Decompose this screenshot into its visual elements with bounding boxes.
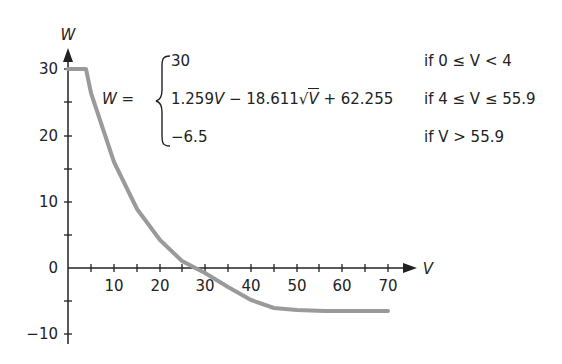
- y-tick-label: −10: [26, 325, 58, 343]
- expr-coef: 1.259: [171, 90, 214, 108]
- expr-const: + 62.255: [319, 90, 394, 108]
- piece-1-expr: 30: [171, 52, 190, 70]
- y-tick-label: 20: [39, 127, 58, 145]
- x-tick-label: 50: [287, 277, 306, 295]
- piece-1-condition: if 0 ≤ V < 4: [424, 52, 512, 70]
- expr-sqrt-var: V: [308, 88, 318, 108]
- piece-3-condition: if V > 55.9: [424, 128, 504, 146]
- x-tick-label: 20: [150, 277, 169, 295]
- x-tick-label: 70: [378, 277, 397, 295]
- sqrt-icon: √: [299, 90, 309, 108]
- x-tick-label: 30: [195, 277, 214, 295]
- y-tick-label: 10: [39, 193, 58, 211]
- piece-3-expr: −6.5: [171, 128, 207, 146]
- y-axis-label: W: [61, 26, 77, 44]
- x-tick-label: 60: [332, 277, 351, 295]
- equation-lhs: W =: [102, 90, 134, 108]
- x-axis-arrow-icon: [403, 263, 417, 273]
- y-tick-label: 0: [48, 259, 58, 277]
- x-axis-label: V: [423, 260, 435, 278]
- x-tick-label: 10: [104, 277, 123, 295]
- piece-2-condition: if 4 ≤ V ≤ 55.9: [424, 90, 536, 108]
- x-tick-label: 40: [241, 277, 260, 295]
- y-tick-label: 30: [39, 60, 58, 78]
- piece-2-expr: 1.259V − 18.611√V + 62.255: [171, 90, 393, 108]
- expr-var: V: [214, 90, 224, 108]
- piecewise-brace: [156, 56, 170, 146]
- y-axis-arrow-icon: [63, 48, 73, 62]
- equation-lhs-text: W =: [102, 90, 134, 108]
- expr-sqrt-coef: − 18.611: [224, 90, 299, 108]
